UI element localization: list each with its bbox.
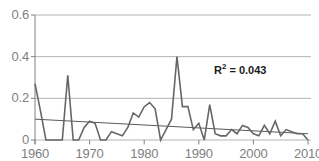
x-axis-tick-label: 1960 bbox=[12, 146, 58, 161]
x-axis-tick-label: 1970 bbox=[67, 146, 113, 161]
r-squared-annotation: R2 = 0.043 bbox=[214, 62, 266, 76]
y-axis-tick-label: 0.2 bbox=[1, 90, 29, 105]
r-squared-symbol: R bbox=[214, 64, 222, 76]
y-axis-tick-label: 0.6 bbox=[1, 7, 29, 22]
y-axis-tick-label: 0.4 bbox=[1, 49, 29, 64]
y-axis-tick-label: 0 bbox=[1, 132, 29, 147]
x-axis-tick-label: 2010 bbox=[285, 146, 319, 161]
x-axis-tick-label: 2000 bbox=[230, 146, 276, 161]
chart-container: 00.20.40.6 196019701980199020002010 R2 =… bbox=[0, 0, 319, 161]
x-axis-tick-label: 1980 bbox=[121, 146, 167, 161]
chart-plot-area bbox=[0, 0, 319, 161]
trendline-path bbox=[35, 119, 308, 134]
r-squared-value: = 0.043 bbox=[226, 64, 266, 76]
x-axis-tick-label: 1990 bbox=[176, 146, 222, 161]
